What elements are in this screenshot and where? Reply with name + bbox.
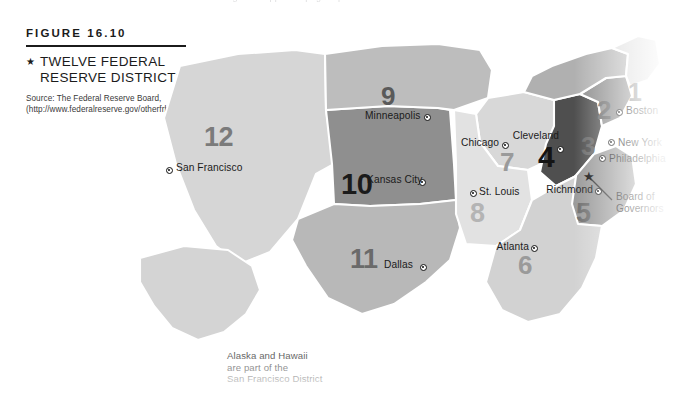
city-dot-st-louis xyxy=(470,190,477,197)
board-of-governors-star-icon: ★ xyxy=(583,170,595,183)
city-label-richmond: Richmond xyxy=(539,184,593,195)
city-dot-philadelphia xyxy=(599,155,606,162)
city-label-san-francisco: San Francisco xyxy=(176,162,236,173)
city-dot-chicago xyxy=(502,142,509,149)
city-label-st-louis: St. Louis xyxy=(479,186,520,197)
map-svg xyxy=(120,14,694,403)
city-dot-richmond xyxy=(595,188,602,195)
city-dot-boston xyxy=(616,109,623,116)
board-of-governors-label: Board ofGovernors xyxy=(616,191,664,216)
star-bullet-icon: ★ xyxy=(26,54,35,69)
city-label-minneapolis: Minneapolis xyxy=(365,110,420,121)
city-dot-atlanta xyxy=(531,245,538,252)
city-label-cleveland: Cleveland xyxy=(503,130,559,141)
figure-page: running text clipped at page top FIGURE … xyxy=(0,0,694,403)
city-label-atlanta: Atlanta xyxy=(477,241,529,252)
city-dot-san-francisco xyxy=(166,167,173,174)
city-label-boston: Boston xyxy=(626,105,658,116)
city-label-philadelphia: Philadelphia xyxy=(609,153,666,164)
clipped-top-text-label: running text clipped at page top xyxy=(205,0,685,2)
us-federal-reserve-district-map: 12 10 11 9 7 8 4 3 2 1 5 6 San Francisco… xyxy=(120,14,694,403)
city-label-chicago: Chicago xyxy=(449,137,499,148)
city-dot-dallas xyxy=(420,264,427,271)
district-region-9 xyxy=(325,44,492,110)
city-dot-cleveland xyxy=(557,146,564,153)
city-label-new-york: New York xyxy=(618,137,662,148)
alaska-region xyxy=(140,246,260,340)
clipped-top-text: running text clipped at page top xyxy=(205,0,685,7)
alaska-hawaii-note: Alaska and Hawaiiare part of theSan Fran… xyxy=(227,350,323,385)
district-region-11 xyxy=(292,200,460,314)
city-label-dallas: Dallas xyxy=(384,259,413,270)
city-dot-minneapolis xyxy=(424,114,431,121)
city-label-kansas-city: Kansas City xyxy=(367,174,417,185)
city-dot-new-york xyxy=(608,139,615,146)
